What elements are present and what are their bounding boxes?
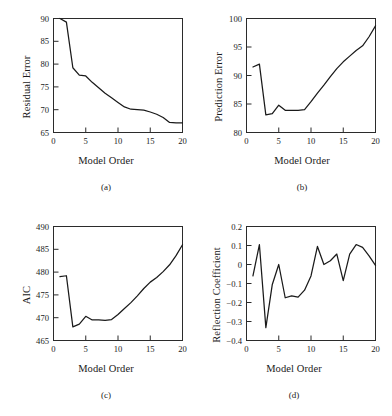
- xtick-label: 20: [178, 136, 187, 146]
- plot-b-yticks: [247, 19, 252, 133]
- figure-panel-grid: 90 85 80 75 70 65 0 5 10 15 20: [0, 0, 392, 416]
- panel-b-caption: (b): [212, 182, 392, 192]
- ytick-label: 100: [229, 14, 242, 24]
- xtick-label: 5: [277, 136, 281, 146]
- panel-a: 90 85 80 75 70 65 0 5 10 15 20: [0, 0, 196, 208]
- xtick-label: 0: [51, 136, 55, 146]
- ytick-label: 95: [233, 42, 242, 52]
- plot-b-xtick-labels: 0 5 10 15 20: [244, 136, 379, 146]
- ytick-label: 80: [233, 128, 242, 138]
- ytick-label: 470: [36, 313, 49, 323]
- panel-d-caption: (d): [196, 390, 392, 400]
- plot-b-axes: 100 95 90 85 80 0 5 10 15 20: [229, 14, 380, 146]
- data-curve-a: [60, 19, 183, 123]
- xtick-label: 0: [244, 136, 248, 146]
- xtick-label: 15: [339, 344, 348, 354]
- plot-d: 0.2 0.1 0 −0.1 −0.2 −0.3 −0.4 0 5 10 15 …: [196, 208, 392, 358]
- ytick-label: 0.1: [231, 241, 242, 251]
- xtick-label: 5: [84, 344, 88, 354]
- ytick-label: −0.3: [226, 317, 242, 327]
- panel-a-xlabel: Model Order: [16, 155, 196, 166]
- panel-a-ylabel: Residual Error: [19, 12, 35, 162]
- plot-d-xticks: [247, 336, 376, 341]
- ytick-label: 0: [238, 260, 242, 270]
- plot-c-axes: 490 485 480 475 470 465 0 5 10 15 20: [36, 222, 187, 354]
- ytick-label: 80: [40, 59, 49, 69]
- ytick-label: 0.2: [231, 222, 242, 232]
- xtick-label: 20: [178, 344, 187, 354]
- panel-b-xlabel: Model Order: [212, 155, 392, 166]
- panel-d-xlabel: Model Order: [196, 363, 392, 374]
- xtick-label: 5: [84, 136, 88, 146]
- xtick-label: 10: [114, 136, 123, 146]
- ytick-label: −0.2: [226, 298, 242, 308]
- panel-c-ylabel: AIC: [19, 220, 35, 370]
- xtick-label: 0: [244, 344, 248, 354]
- plot-d-yticks: [247, 227, 252, 341]
- plot-a-ytick-labels: 90 85 80 75 70 65: [40, 14, 49, 138]
- xtick-label: 20: [371, 136, 380, 146]
- xtick-label: 15: [146, 136, 155, 146]
- plot-a-axes: 90 85 80 75 70 65 0 5 10 15 20: [40, 14, 186, 146]
- ytick-label: 485: [36, 244, 49, 254]
- plot-d-axes: 0.2 0.1 0 −0.1 −0.2 −0.3 −0.4 0 5 10 15 …: [226, 222, 379, 354]
- xtick-label: 15: [146, 344, 155, 354]
- panel-c-xlabel: Model Order: [16, 363, 196, 374]
- panel-c-caption: (c): [16, 390, 196, 400]
- ytick-label: 70: [40, 105, 49, 115]
- ytick-label: 85: [40, 36, 49, 46]
- ytick-label: 65: [40, 128, 49, 138]
- panel-d: 0.2 0.1 0 −0.1 −0.2 −0.3 −0.4 0 5 10 15 …: [196, 208, 392, 416]
- xtick-label: 10: [307, 136, 316, 146]
- plot-a-xtick-labels: 0 5 10 15 20: [51, 136, 186, 146]
- plot-c-xticks: [54, 336, 183, 341]
- ytick-label: 90: [233, 71, 242, 81]
- ytick-label: 85: [233, 99, 242, 109]
- data-curve-b: [253, 26, 376, 115]
- panel-a-caption: (a): [16, 182, 196, 192]
- plot-c-xtick-labels: 0 5 10 15 20: [51, 344, 186, 354]
- panel-b-ylabel: Prediction Error: [211, 12, 227, 162]
- ytick-label: 465: [36, 336, 49, 346]
- xtick-label: 10: [114, 344, 123, 354]
- xtick-label: 20: [371, 344, 380, 354]
- xtick-label: 10: [307, 344, 316, 354]
- plot-d-xtick-labels: 0 5 10 15 20: [244, 344, 379, 354]
- plot-c-ytick-labels: 490 485 480 475 470 465: [36, 222, 49, 346]
- ytick-label: −0.1: [226, 279, 242, 289]
- plot-b-ytick-labels: 100 95 90 85 80: [229, 14, 242, 138]
- plot-c-yticks: [54, 227, 59, 341]
- ytick-label: 75: [40, 82, 49, 92]
- data-curve-d: [253, 245, 376, 328]
- ytick-label: −0.4: [226, 336, 242, 346]
- panel-d-ylabel: Reflection Coefficient: [209, 220, 225, 370]
- ytick-label: 475: [36, 290, 49, 300]
- plot-d-ytick-labels: 0.2 0.1 0 −0.1 −0.2 −0.3 −0.4: [226, 222, 242, 346]
- ytick-label: 90: [40, 14, 49, 24]
- panel-c: 490 485 480 475 470 465 0 5 10 15 20: [0, 208, 196, 416]
- plot-d-svg: 0.2 0.1 0 −0.1 −0.2 −0.3 −0.4 0 5 10 15 …: [196, 208, 392, 358]
- panel-b: 100 95 90 85 80 0 5 10 15 20: [196, 0, 392, 208]
- xtick-label: 5: [277, 344, 281, 354]
- data-curve-c: [60, 245, 183, 327]
- plot-a-yticks: [54, 19, 59, 133]
- plot-a-xticks: [54, 128, 183, 133]
- xtick-label: 0: [51, 344, 55, 354]
- xtick-label: 15: [339, 136, 348, 146]
- ytick-label: 490: [36, 222, 49, 232]
- plot-b-xticks: [247, 128, 376, 133]
- ytick-label: 480: [36, 267, 49, 277]
